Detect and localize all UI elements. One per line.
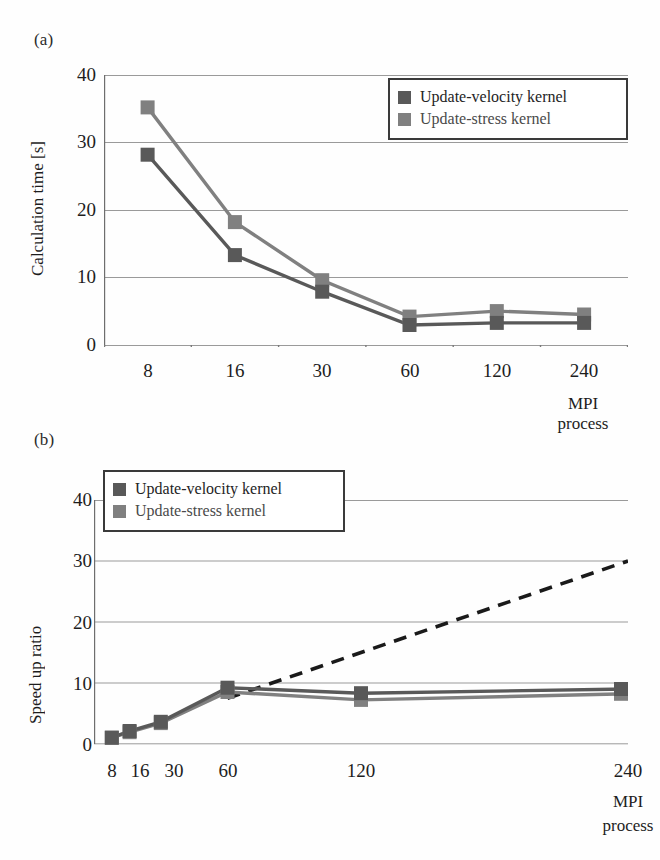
legend-a-label-stress: Update-stress kernel — [420, 110, 551, 128]
legend-swatch-velocity-icon — [398, 91, 411, 104]
legend-b-row-velocity: Update-velocity kernel — [113, 478, 333, 500]
series-ideal-line-b — [228, 561, 629, 698]
x-tick-b-120: 120 — [347, 760, 376, 782]
y-tick-a-10: 10 — [52, 266, 96, 288]
legend-swatch-stress-icon — [398, 113, 411, 126]
x-tick-a-60: 60 — [401, 360, 420, 382]
y-tick-a-0: 0 — [52, 334, 96, 356]
y-tick-a-30: 30 — [52, 131, 96, 153]
y-axis-title-b: Speed up ratio — [26, 590, 46, 760]
legend-a-label-velocity: Update-velocity kernel — [420, 88, 567, 106]
legend-a-row-stress: Update-stress kernel — [398, 108, 616, 130]
y-axis-title-a: Calculation time [s] — [28, 98, 48, 318]
x-axis-title-b-line2: process — [585, 816, 660, 836]
x-axis-title-a-line1: MPI — [540, 394, 626, 414]
x-tick-a-30: 30 — [313, 360, 332, 382]
legend-b-label-velocity: Update-velocity kernel — [135, 480, 282, 498]
gridlines-b — [94, 501, 628, 744]
x-tick-b-240: 240 — [614, 760, 643, 782]
chart-b-svg — [94, 500, 628, 745]
x-axis-title-b-line1: MPI — [585, 792, 660, 812]
figure-root: (a) Calculation time [s] 40 30 20 10 0 — [0, 0, 660, 860]
y-tick-b-20: 20 — [48, 612, 92, 634]
series-velocity-markers-a — [141, 148, 591, 332]
y-tick-b-0: 0 — [48, 734, 92, 756]
legend-b-label-stress: Update-stress kernel — [135, 502, 266, 520]
y-tick-b-30: 30 — [48, 550, 92, 572]
x-tick-b-16: 16 — [131, 760, 150, 782]
y-tick-b-40: 40 — [48, 489, 92, 511]
legend-swatch-stress-icon — [113, 505, 126, 518]
panel-b-label: (b) — [34, 430, 54, 450]
panel-a: (a) Calculation time [s] 40 30 20 10 0 — [0, 0, 660, 430]
legend-a: Update-velocity kernel Update-stress ker… — [388, 78, 628, 140]
series-stress-line-b — [112, 692, 628, 738]
x-tick-b-60: 60 — [219, 760, 238, 782]
y-tick-a-20: 20 — [52, 199, 96, 221]
legend-b: Update-velocity kernel Update-stress ker… — [103, 470, 345, 532]
x-tick-b-30: 30 — [165, 760, 184, 782]
legend-swatch-velocity-icon — [113, 483, 126, 496]
plot-area-b — [94, 500, 628, 745]
x-tick-a-16: 16 — [226, 360, 245, 382]
panel-a-label: (a) — [34, 30, 53, 50]
x-tick-a-8: 8 — [143, 360, 153, 382]
x-tick-a-240: 240 — [570, 360, 599, 382]
x-tick-a-120: 120 — [483, 360, 512, 382]
legend-b-row-stress: Update-stress kernel — [113, 500, 333, 522]
y-tick-a-40: 40 — [52, 64, 96, 86]
y-tick-b-10: 10 — [48, 673, 92, 695]
x-tick-b-8: 8 — [107, 760, 117, 782]
legend-a-row-velocity: Update-velocity kernel — [398, 86, 616, 108]
